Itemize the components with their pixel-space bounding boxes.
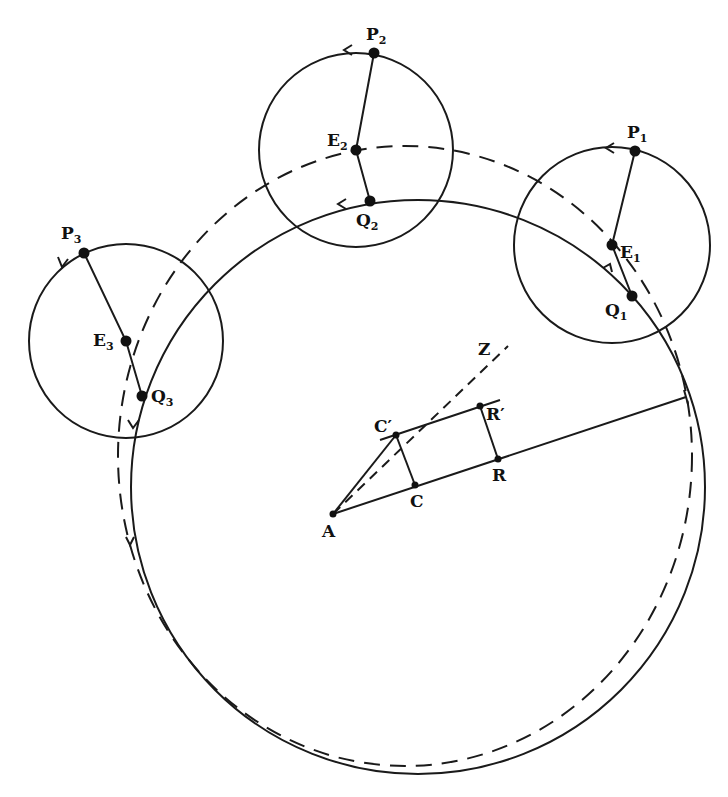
label-P2: P2 <box>366 24 386 47</box>
point-E2 <box>351 145 362 156</box>
arrow-markers <box>58 45 614 545</box>
label-C: C <box>410 491 424 511</box>
arrow-icon <box>126 537 134 545</box>
arrow-icon <box>338 199 346 209</box>
dashed-line-AZ <box>333 346 508 514</box>
point-Rprime <box>477 403 484 410</box>
ray-A-to-circle <box>333 397 686 514</box>
point-C <box>412 482 419 489</box>
label-R: R <box>492 465 507 485</box>
radius-line-2 <box>356 53 374 201</box>
epicycle-diagram: P1 E1 Q1 P2 E2 Q2 P3 E3 Q3 A C C′ R R′ Z <box>0 0 728 797</box>
point-P2 <box>369 48 380 59</box>
point-Q3 <box>137 391 148 402</box>
label-Z: Z <box>478 339 490 359</box>
label-E2: E2 <box>327 130 348 153</box>
label-Cprime: C′ <box>374 416 393 436</box>
label-Rprime: R′ <box>486 404 505 424</box>
point-E3 <box>121 336 132 347</box>
segment-Cprime-C <box>396 435 415 485</box>
point-P3 <box>79 248 90 259</box>
point-Q1 <box>627 291 638 302</box>
point-R <box>495 456 502 463</box>
point-Q2 <box>365 196 376 207</box>
point-Cprime <box>393 432 400 439</box>
radius-line-1 <box>612 151 635 296</box>
label-A: A <box>321 521 336 541</box>
label-E3: E3 <box>93 330 114 353</box>
deferent-solid-circle <box>131 200 705 774</box>
radius-line-3 <box>84 253 142 396</box>
label-P1: P1 <box>627 122 647 145</box>
label-Q1: Q1 <box>605 300 627 323</box>
label-Q2: Q2 <box>356 210 378 233</box>
point-P1 <box>630 146 641 157</box>
label-P3: P3 <box>61 223 81 246</box>
label-E1: E1 <box>620 242 641 265</box>
point-E1 <box>607 240 618 251</box>
label-Q3: Q3 <box>151 386 173 409</box>
segment-A-Cprime <box>333 435 396 514</box>
point-A <box>330 511 337 518</box>
